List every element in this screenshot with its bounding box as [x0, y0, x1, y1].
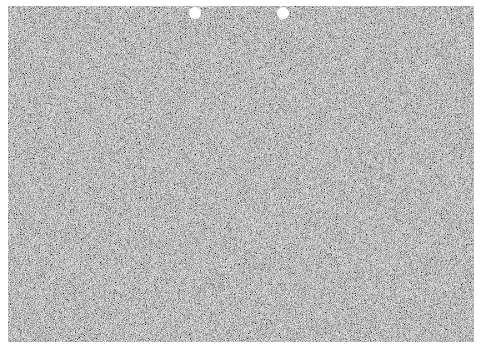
- image-canvas: [0, 0, 482, 354]
- punch-hole-left: [189, 7, 201, 19]
- punch-hole-right: [277, 7, 289, 19]
- noise-texture: [8, 6, 474, 342]
- noise-sheet: [8, 6, 474, 342]
